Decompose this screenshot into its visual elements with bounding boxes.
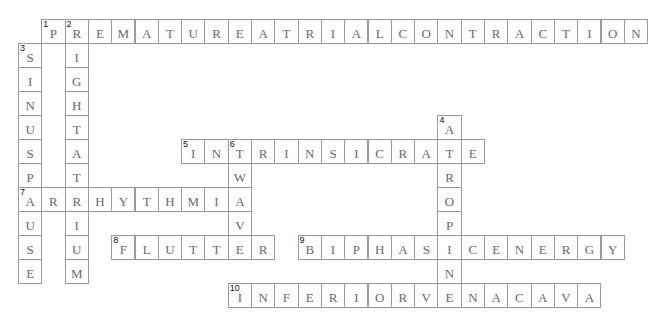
crossword-cell[interactable]: A bbox=[344, 19, 368, 44]
crossword-cell[interactable]: A bbox=[577, 283, 601, 308]
crossword-cell[interactable]: R bbox=[554, 235, 578, 260]
crossword-cell[interactable]: A bbox=[507, 19, 531, 44]
crossword-cell[interactable]: N bbox=[298, 139, 322, 164]
crossword-cell[interactable]: U bbox=[65, 235, 89, 260]
crossword-cell[interactable]: I bbox=[65, 211, 89, 236]
crossword-cell[interactable]: M bbox=[65, 259, 89, 284]
crossword-cell[interactable]: U bbox=[158, 235, 182, 260]
crossword-cell[interactable]: N bbox=[204, 139, 228, 164]
crossword-cell[interactable]: I bbox=[321, 19, 345, 44]
crossword-cell[interactable]: I bbox=[274, 139, 298, 164]
crossword-cell[interactable]: 8F bbox=[111, 235, 135, 260]
crossword-cell[interactable]: E bbox=[484, 235, 508, 260]
crossword-cell[interactable]: N bbox=[18, 91, 42, 116]
crossword-cell[interactable]: I bbox=[18, 67, 42, 92]
crossword-cell[interactable]: E bbox=[531, 235, 555, 260]
crossword-cell[interactable]: R bbox=[65, 187, 89, 212]
crossword-cell[interactable]: 10I bbox=[228, 283, 252, 308]
crossword-cell[interactable]: N bbox=[624, 19, 648, 44]
crossword-cell[interactable]: 3S bbox=[18, 43, 42, 68]
crossword-cell[interactable]: N bbox=[251, 283, 275, 308]
crossword-cell[interactable]: R bbox=[251, 139, 275, 164]
crossword-cell[interactable]: R bbox=[321, 283, 345, 308]
crossword-cell[interactable]: R bbox=[204, 19, 228, 44]
crossword-cell[interactable]: I bbox=[344, 283, 368, 308]
crossword-cell[interactable]: O bbox=[437, 187, 461, 212]
crossword-cell[interactable]: N bbox=[437, 259, 461, 284]
crossword-cell[interactable]: E bbox=[228, 235, 252, 260]
crossword-cell[interactable]: 2R bbox=[65, 19, 89, 44]
crossword-cell[interactable]: E bbox=[298, 283, 322, 308]
crossword-cell[interactable]: H bbox=[88, 187, 112, 212]
crossword-cell[interactable]: U bbox=[181, 19, 205, 44]
crossword-cell[interactable]: A bbox=[531, 283, 555, 308]
crossword-cell[interactable]: E bbox=[437, 283, 461, 308]
crossword-cell[interactable]: A bbox=[228, 187, 252, 212]
crossword-cell[interactable]: N bbox=[437, 19, 461, 44]
crossword-cell[interactable]: R bbox=[391, 139, 415, 164]
crossword-cell[interactable]: 5I bbox=[181, 139, 205, 164]
crossword-cell[interactable]: U bbox=[18, 115, 42, 140]
crossword-cell[interactable]: N bbox=[461, 283, 485, 308]
crossword-cell[interactable]: C bbox=[461, 235, 485, 260]
crossword-cell[interactable]: 6T bbox=[228, 139, 252, 164]
crossword-cell[interactable]: A bbox=[251, 19, 275, 44]
crossword-cell[interactable]: Y bbox=[601, 235, 625, 260]
crossword-cell[interactable]: T bbox=[65, 163, 89, 188]
crossword-cell[interactable]: I bbox=[437, 235, 461, 260]
crossword-cell[interactable]: O bbox=[368, 283, 392, 308]
crossword-cell[interactable]: S bbox=[18, 139, 42, 164]
crossword-cell[interactable]: R bbox=[41, 187, 65, 212]
crossword-cell[interactable]: S bbox=[321, 139, 345, 164]
crossword-cell[interactable]: H bbox=[158, 187, 182, 212]
crossword-cell[interactable]: A bbox=[414, 139, 438, 164]
crossword-cell[interactable]: T bbox=[274, 19, 298, 44]
crossword-cell[interactable]: E bbox=[88, 19, 112, 44]
crossword-cell[interactable]: U bbox=[18, 211, 42, 236]
crossword-cell[interactable]: S bbox=[414, 235, 438, 260]
crossword-cell[interactable]: 7A bbox=[18, 187, 42, 212]
crossword-cell[interactable]: L bbox=[368, 19, 392, 44]
crossword-cell[interactable]: N bbox=[507, 235, 531, 260]
crossword-cell[interactable]: G bbox=[65, 67, 89, 92]
crossword-cell[interactable]: W bbox=[228, 163, 252, 188]
crossword-cell[interactable]: E bbox=[228, 19, 252, 44]
crossword-cell[interactable]: T bbox=[181, 235, 205, 260]
crossword-cell[interactable]: P bbox=[18, 163, 42, 188]
crossword-cell[interactable]: R bbox=[484, 19, 508, 44]
crossword-cell[interactable]: T bbox=[461, 19, 485, 44]
crossword-cell[interactable]: C bbox=[507, 283, 531, 308]
crossword-cell[interactable]: I bbox=[577, 19, 601, 44]
crossword-cell[interactable]: P bbox=[344, 235, 368, 260]
crossword-cell[interactable]: P bbox=[437, 211, 461, 236]
crossword-cell[interactable]: V bbox=[228, 211, 252, 236]
crossword-cell[interactable]: T bbox=[65, 115, 89, 140]
crossword-cell[interactable]: C bbox=[391, 19, 415, 44]
crossword-cell[interactable]: E bbox=[18, 259, 42, 284]
crossword-cell[interactable]: G bbox=[577, 235, 601, 260]
crossword-cell[interactable]: L bbox=[135, 235, 159, 260]
crossword-cell[interactable]: T bbox=[158, 19, 182, 44]
crossword-cell[interactable]: R bbox=[391, 283, 415, 308]
crossword-cell[interactable]: I bbox=[321, 235, 345, 260]
crossword-cell[interactable]: A bbox=[65, 139, 89, 164]
crossword-cell[interactable]: M bbox=[111, 19, 135, 44]
crossword-cell[interactable]: 4A bbox=[437, 115, 461, 140]
crossword-cell[interactable]: 1P bbox=[41, 19, 65, 44]
crossword-cell[interactable]: O bbox=[414, 19, 438, 44]
crossword-cell[interactable]: R bbox=[251, 235, 275, 260]
crossword-cell[interactable]: S bbox=[18, 235, 42, 260]
crossword-cell[interactable]: C bbox=[531, 19, 555, 44]
crossword-cell[interactable]: T bbox=[437, 139, 461, 164]
crossword-cell[interactable]: M bbox=[181, 187, 205, 212]
crossword-cell[interactable]: 9B bbox=[298, 235, 322, 260]
crossword-cell[interactable]: E bbox=[461, 139, 485, 164]
crossword-cell[interactable]: V bbox=[414, 283, 438, 308]
crossword-cell[interactable]: R bbox=[437, 163, 461, 188]
crossword-cell[interactable]: A bbox=[391, 235, 415, 260]
crossword-cell[interactable]: T bbox=[204, 235, 228, 260]
crossword-cell[interactable]: R bbox=[298, 19, 322, 44]
crossword-cell[interactable]: T bbox=[135, 187, 159, 212]
crossword-cell[interactable]: Y bbox=[111, 187, 135, 212]
crossword-cell[interactable]: H bbox=[65, 91, 89, 116]
